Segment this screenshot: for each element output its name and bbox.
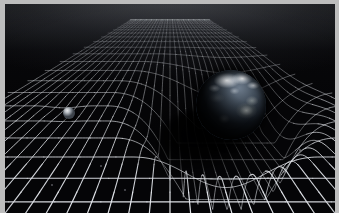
spacetime-scene — [5, 4, 335, 213]
earth-sphere — [196, 70, 266, 140]
grid-speck — [51, 184, 53, 186]
spacetime-grid — [5, 4, 335, 213]
grid-speck — [299, 149, 301, 151]
figure-container — [0, 0, 339, 213]
small-sphere — [63, 107, 75, 119]
earth-limb-rim — [196, 70, 266, 140]
